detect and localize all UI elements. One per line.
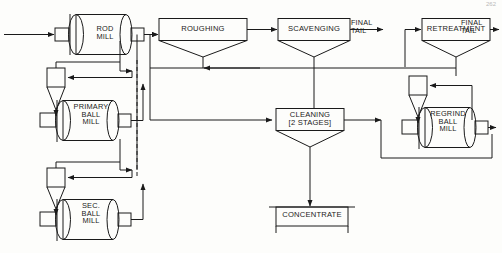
primary-cyclone-shape: [47, 68, 65, 116]
rod-mill-label: ROD MILL: [82, 25, 128, 40]
secondary-cyclone-shape: [47, 168, 65, 215]
roughing-cell-label: ROUGHING: [159, 25, 247, 33]
concentrate-label: CONCENTRATE: [276, 211, 348, 219]
regrind-ball-mill-label: REGRIND BALL MILL: [424, 110, 472, 133]
primary-ball-mill-label: PRIMARY BALL MILL: [66, 103, 116, 126]
cleaning-cell-label: CLEANING [2 STAGES]: [276, 111, 344, 126]
scavenging-cell-label: SCAVENGING: [278, 25, 350, 33]
retreatment-final-tail-label: FINAL TAIL: [461, 19, 493, 34]
cleaning-cell-shape: [150, 68, 381, 206]
page-number: 262: [486, 1, 496, 7]
secondary-ball-mill-label: SEC. BALL MILL: [66, 202, 116, 225]
scavenging-final-tail-label: FINAL TAIL: [351, 19, 383, 34]
flowsheet-diagram: ROD MILL PRIMARY BALL MILL SEC. BALL MIL…: [0, 0, 502, 253]
